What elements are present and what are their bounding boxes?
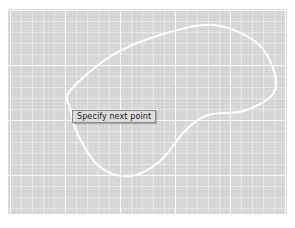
command-prompt-tooltip-label: Specify next point — [77, 112, 151, 121]
command-prompt-tooltip: Specify next point — [72, 110, 156, 123]
closed-spline-curve — [67, 25, 277, 176]
canvas-bottom-margin — [0, 214, 295, 228]
cad-application-window: Specify next point — [0, 0, 295, 228]
